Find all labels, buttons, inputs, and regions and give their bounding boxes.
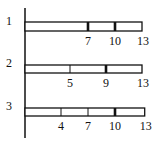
tick-label: 5 bbox=[67, 76, 73, 90]
tick-label: 7 bbox=[85, 34, 91, 48]
tick-label: 9 bbox=[103, 76, 109, 90]
bar-row-2: 25913 bbox=[6, 56, 149, 90]
tick-label: 10 bbox=[109, 34, 121, 48]
tick-label: 7 bbox=[85, 119, 91, 133]
bar-row-3: 3471013 bbox=[6, 99, 152, 133]
bar-row-1: 171013 bbox=[6, 14, 149, 49]
bar bbox=[25, 22, 142, 31]
end-label: 13 bbox=[137, 34, 149, 48]
tick-label: 10 bbox=[109, 119, 121, 133]
segmented-bar-diagram: 171013259133471013 bbox=[0, 0, 158, 144]
tick-label: 4 bbox=[58, 119, 64, 133]
row-label: 1 bbox=[6, 14, 12, 28]
end-label: 13 bbox=[140, 119, 152, 133]
end-label: 13 bbox=[137, 76, 149, 90]
bar-rows: 171013259133471013 bbox=[6, 14, 152, 134]
row-label: 3 bbox=[6, 99, 12, 113]
row-label: 2 bbox=[6, 56, 12, 70]
bar bbox=[25, 108, 145, 116]
bar bbox=[25, 65, 142, 73]
